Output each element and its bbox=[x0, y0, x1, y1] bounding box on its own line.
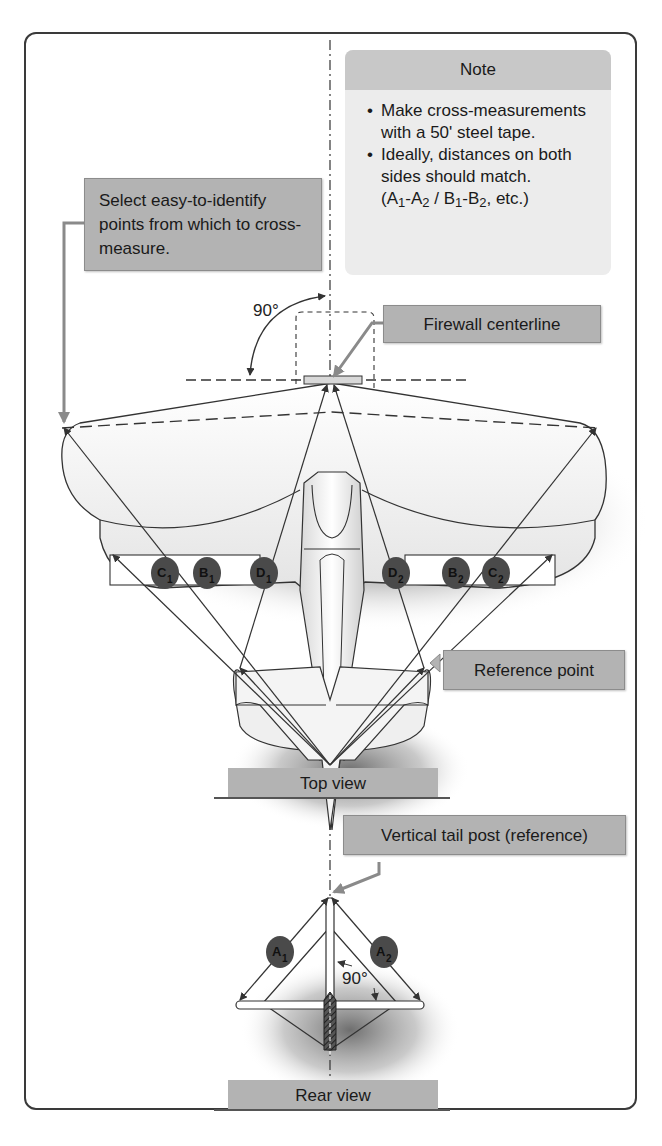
svg-text:2: 2 bbox=[458, 574, 464, 585]
svg-text:2: 2 bbox=[498, 574, 504, 585]
note-title: Note bbox=[345, 50, 611, 90]
badge-D1: D1 bbox=[250, 557, 278, 589]
angle-label-top: 90° bbox=[253, 301, 279, 320]
vertical-tail-post-callout: Vertical tail post (reference) bbox=[343, 815, 626, 855]
rear-view-rule bbox=[214, 1109, 450, 1111]
top-view-label: Top view bbox=[228, 768, 438, 798]
badge-C1: C1 bbox=[151, 557, 179, 589]
svg-text:1: 1 bbox=[167, 574, 173, 585]
svg-text:1: 1 bbox=[209, 574, 215, 585]
svg-text:A: A bbox=[272, 944, 282, 959]
svg-text:1: 1 bbox=[266, 574, 272, 585]
svg-text:C: C bbox=[157, 565, 167, 580]
svg-text:B: B bbox=[448, 565, 457, 580]
badge-C2: C2 bbox=[482, 557, 510, 589]
firewall-pointer bbox=[334, 323, 384, 376]
badge-A2: A2 bbox=[370, 936, 398, 968]
svg-text:D: D bbox=[256, 565, 265, 580]
svg-text:2: 2 bbox=[398, 574, 404, 585]
reference-point-callout: Reference point bbox=[443, 650, 625, 690]
svg-text:C: C bbox=[488, 565, 498, 580]
firewall-plate bbox=[304, 376, 362, 384]
firewall-centerline-callout: Firewall centerline bbox=[383, 305, 601, 343]
note-item-pairs: (A1-A2 / B1-B2, etc.) bbox=[381, 189, 529, 208]
badge-B2: B2 bbox=[442, 557, 470, 589]
svg-text:1: 1 bbox=[282, 953, 288, 964]
svg-text:D: D bbox=[388, 565, 397, 580]
note-list: Make cross-measurements with a 50' steel… bbox=[345, 90, 611, 210]
note-box: Note Make cross-measurements with a 50' … bbox=[345, 50, 611, 275]
rear-view-label: Rear view bbox=[228, 1080, 438, 1109]
note-item: Ideally, distances on both sides should … bbox=[367, 144, 601, 210]
tail-post-pointer bbox=[334, 862, 379, 892]
angle-label-rear: 90° bbox=[342, 969, 368, 988]
top-view-rule bbox=[214, 797, 450, 799]
note-item: Make cross-measurements with a 50' steel… bbox=[367, 100, 601, 144]
svg-text:A: A bbox=[376, 944, 386, 959]
badge-D2: D2 bbox=[382, 557, 410, 589]
aileron-right bbox=[405, 555, 555, 585]
fuselage-rear bbox=[324, 992, 336, 1050]
badge-B1: B1 bbox=[193, 557, 221, 589]
badge-A1: A1 bbox=[266, 936, 294, 968]
svg-text:2: 2 bbox=[386, 953, 392, 964]
svg-text:B: B bbox=[199, 565, 208, 580]
select-points-callout: Select easy-to-identify points from whic… bbox=[84, 178, 322, 271]
